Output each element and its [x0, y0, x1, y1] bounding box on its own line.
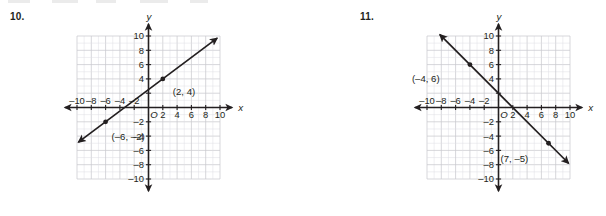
- point-label: (2, 4): [173, 86, 195, 97]
- plotted-point: [546, 141, 551, 146]
- y-tick-label: 8: [139, 45, 144, 56]
- problem-10-graph: –10–8–6–4–224681010864–2–4–6–8–10Oxy(2, …: [15, 6, 290, 211]
- x-tick-label: 4: [174, 109, 179, 120]
- y-tick-label: –2: [484, 116, 494, 127]
- point-label: (–4, 6): [412, 73, 440, 84]
- axis-tick-labels: –10–8–6–4–224681010864–2–4–6–8–10Oxy: [69, 11, 244, 185]
- y-axis-name: y: [146, 11, 153, 22]
- x-tick-label: –4: [465, 95, 475, 106]
- x-tick-label: –8: [86, 95, 96, 106]
- y-tick-label: –8: [134, 159, 144, 170]
- x-axis-name: x: [237, 102, 244, 113]
- plotted-points: (–4, 6)(7, –5): [412, 62, 551, 164]
- problem-11-graph: –10–8–6–4–224681010864–2–4–6–8–10Oxy(–4,…: [365, 6, 606, 211]
- x-tick-label: 4: [524, 109, 529, 120]
- x-tick-label: 6: [539, 109, 544, 120]
- y-tick-label: –6: [484, 145, 494, 156]
- y-axis-name: y: [496, 11, 503, 22]
- y-tick-label: –6: [134, 145, 144, 156]
- x-tick-label: 8: [553, 109, 558, 120]
- origin-label: O: [500, 109, 508, 120]
- y-tick-label: 6: [489, 59, 494, 70]
- x-tick-label: 10: [565, 109, 575, 120]
- coordinate-plane-10: –10–8–6–4–224681010864–2–4–6–8–10Oxy(2, …: [15, 6, 290, 211]
- y-tick-label: 4: [139, 73, 144, 84]
- plotted-point: [103, 119, 108, 124]
- x-tick-label: 2: [160, 109, 165, 120]
- coordinate-plane-11: –10–8–6–4–224681010864–2–4–6–8–10Oxy(–4,…: [365, 6, 606, 211]
- axes: [415, 24, 582, 191]
- problem-10: 10. –10–8–6–4–224681010864–2–4–6–8–10Oxy…: [0, 0, 303, 216]
- x-tick-label: 6: [189, 109, 194, 120]
- origin-label: O: [150, 109, 158, 120]
- point-label: (–6, –2): [112, 131, 145, 142]
- point-label: (7, –5): [501, 153, 529, 164]
- y-tick-label: 10: [134, 30, 144, 41]
- x-tick-label: –10: [419, 95, 435, 106]
- x-tick-label: 8: [203, 109, 208, 120]
- y-tick-label: 10: [484, 30, 494, 41]
- x-tick-label: –2: [479, 95, 489, 106]
- x-tick-label: –10: [69, 95, 85, 106]
- x-tick-label: 10: [215, 109, 225, 120]
- plotted-point: [160, 77, 165, 82]
- plotted-point: [468, 62, 473, 67]
- axes: [65, 24, 232, 191]
- x-axis-name: x: [587, 102, 594, 113]
- y-tick-label: 6: [139, 59, 144, 70]
- y-tick-label: 8: [489, 45, 494, 56]
- x-tick-label: –6: [450, 95, 460, 106]
- x-tick-label: –6: [100, 95, 110, 106]
- x-tick-label: –8: [436, 95, 446, 106]
- y-tick-label: –10: [128, 173, 144, 184]
- y-tick-label: –2: [134, 116, 144, 127]
- problem-11: 11. –10–8–6–4–224681010864–2–4–6–8–10Oxy…: [303, 0, 606, 216]
- x-tick-label: –4: [115, 95, 125, 106]
- worksheet-page: 10. –10–8–6–4–224681010864–2–4–6–8–10Oxy…: [0, 0, 606, 216]
- y-tick-label: –4: [484, 131, 494, 142]
- y-tick-label: –10: [478, 173, 494, 184]
- y-tick-label: –8: [484, 159, 494, 170]
- y-tick-label: 4: [489, 73, 494, 84]
